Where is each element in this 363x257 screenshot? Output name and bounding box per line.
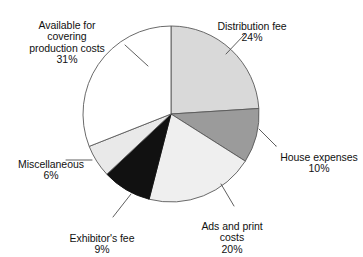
label-exhibitor-percent: 9% bbox=[52, 244, 152, 256]
label-house-percent: 10% bbox=[277, 163, 361, 175]
label-miscellaneous: Miscellaneous 6% bbox=[6, 147, 96, 193]
label-exhibitors-fee: Exhibitor's fee 9% bbox=[52, 221, 152, 257]
leader-line-house bbox=[259, 129, 276, 146]
label-available-percent: 31% bbox=[8, 54, 126, 66]
label-distribution-percent: 24% bbox=[196, 32, 308, 44]
label-distribution-fee: Distribution fee 24% bbox=[196, 9, 308, 55]
label-house-expenses: House expenses 10% bbox=[277, 140, 361, 186]
leader-line-exhibitor bbox=[113, 194, 131, 217]
label-exhibitor-text: Exhibitor's fee bbox=[70, 232, 135, 244]
label-miscellaneous-text: Miscellaneous bbox=[18, 158, 84, 170]
label-house-text: House expenses bbox=[280, 151, 358, 163]
leader-line-ads bbox=[221, 184, 234, 206]
label-ads-text: Ads and print costs bbox=[201, 220, 262, 244]
label-available-production-costs: Available for covering production costs … bbox=[8, 8, 126, 78]
label-ads-and-print-costs: Ads and print costs 20% bbox=[186, 209, 278, 257]
label-distribution-text: Distribution fee bbox=[217, 20, 286, 32]
label-ads-percent: 20% bbox=[186, 244, 278, 256]
pie-chart-figure: Available for covering production costs … bbox=[0, 0, 363, 257]
label-miscellaneous-percent: 6% bbox=[6, 170, 96, 182]
label-available-text: Available for covering production costs bbox=[29, 19, 105, 54]
